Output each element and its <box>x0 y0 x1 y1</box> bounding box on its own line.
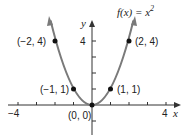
label-point-0-0: (0, 0) <box>68 110 91 121</box>
x-tick-label-4: 4 <box>162 108 168 119</box>
function-label-exponent: 2 <box>150 4 154 13</box>
curve-arrow-left-icon <box>47 16 53 26</box>
y-axis-label: y <box>80 17 86 29</box>
label-point-neg1-1: (−1, 1) <box>40 84 69 95</box>
y-ticks <box>92 41 96 121</box>
label-point-1-1: (1, 1) <box>117 84 140 95</box>
point-2-4 <box>127 39 132 44</box>
label-point-neg2-4: (−2, 4) <box>17 36 46 47</box>
function-label: f(x) = x2 <box>117 4 154 19</box>
point-neg1-1 <box>71 87 76 92</box>
point-0-0 <box>90 103 95 108</box>
point-1-1 <box>108 87 113 92</box>
y-axis-arrow-icon <box>89 20 95 27</box>
function-label-base: f(x) = x <box>117 6 150 19</box>
x-axis-label: x <box>172 107 178 119</box>
y-tick-label-4: 4 <box>80 36 86 47</box>
parabola-chart: (−2, 4) (−1, 1) (0, 0) (1, 1) (2, 4) 4 −… <box>0 0 187 135</box>
label-point-2-4: (2, 4) <box>135 36 158 47</box>
x-tick-label-neg4: −4 <box>8 108 20 119</box>
point-neg2-4 <box>53 39 58 44</box>
